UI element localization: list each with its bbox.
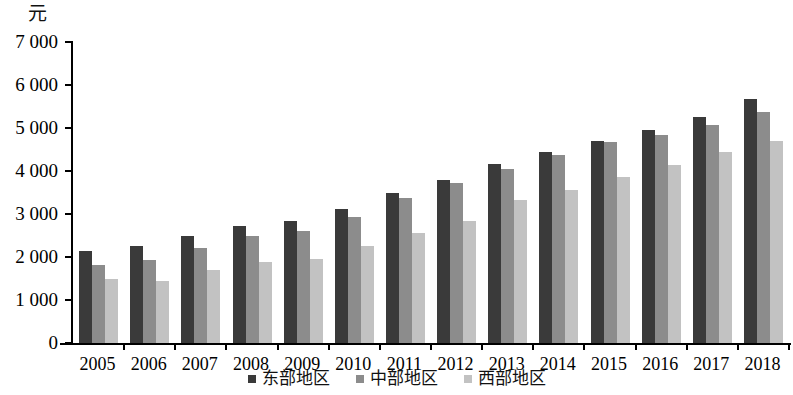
- y-axis-unit-label: 元: [28, 2, 47, 24]
- legend-label: 西部地区: [478, 369, 546, 388]
- bar: [246, 236, 259, 343]
- y-tick-mark: [65, 213, 72, 215]
- y-tick-label: 5 000: [0, 118, 58, 137]
- bar: [361, 246, 374, 343]
- bar: [156, 281, 169, 343]
- y-tick-mark: [65, 299, 72, 301]
- chart-legend: 东部地区中部地区西部地区: [0, 369, 793, 388]
- plot-area: 7 0006 0005 0004 0003 0002 0001 0000 200…: [72, 42, 788, 343]
- bar: [437, 180, 450, 343]
- legend-swatch-icon: [356, 375, 364, 383]
- bar: [412, 233, 425, 343]
- y-tick-label: 1 000: [0, 290, 58, 309]
- bar: [143, 260, 156, 343]
- bar: [130, 246, 143, 343]
- bar: [552, 155, 565, 343]
- bar: [284, 221, 297, 343]
- bar: [706, 125, 719, 343]
- bar: [92, 265, 105, 343]
- x-tick-mark: [379, 343, 381, 350]
- y-tick-mark: [65, 84, 72, 86]
- y-tick-label: 4 000: [0, 161, 58, 180]
- bar: [539, 152, 552, 343]
- bar: [501, 169, 514, 343]
- bar: [565, 190, 578, 344]
- y-tick-mark: [65, 256, 72, 258]
- y-tick-label: 7 000: [0, 32, 58, 51]
- bar: [386, 193, 399, 344]
- bar: [79, 251, 92, 343]
- bar: [757, 112, 770, 343]
- bar: [488, 164, 501, 343]
- x-tick-mark: [686, 343, 688, 350]
- x-tick-mark: [635, 343, 637, 350]
- y-tick-mark: [65, 127, 72, 129]
- legend-item[interactable]: 西部地区: [464, 369, 546, 388]
- bar: [463, 221, 476, 343]
- y-tick-mark: [65, 170, 72, 172]
- bar: [770, 141, 783, 343]
- bar: [399, 198, 412, 343]
- bar: [310, 259, 323, 343]
- legend-swatch-icon: [464, 375, 472, 383]
- bar: [604, 142, 617, 343]
- x-tick-mark: [328, 343, 330, 350]
- x-tick-mark: [532, 343, 534, 350]
- y-tick-label: 3 000: [0, 204, 58, 223]
- bar-chart: 元 7 0006 0005 0004 0003 0002 0001 0000 2…: [0, 0, 793, 395]
- bar: [642, 130, 655, 343]
- bar: [450, 183, 463, 343]
- x-axis-line: [60, 343, 791, 345]
- bar: [297, 231, 310, 343]
- x-tick-mark: [430, 343, 432, 350]
- y-tick-label: 6 000: [0, 75, 58, 94]
- bar: [233, 226, 246, 343]
- bar: [105, 279, 118, 343]
- x-tick-mark: [225, 343, 227, 350]
- y-tick-mark: [65, 41, 72, 43]
- legend-item[interactable]: 东部地区: [248, 369, 330, 388]
- y-tick-label: 0: [0, 333, 58, 352]
- legend-item[interactable]: 中部地区: [356, 369, 438, 388]
- bar: [719, 152, 732, 343]
- bar: [655, 135, 668, 343]
- x-tick-mark: [788, 343, 790, 350]
- x-tick-mark: [737, 343, 739, 350]
- bar: [617, 177, 630, 343]
- legend-label: 中部地区: [370, 369, 438, 388]
- bar: [259, 262, 272, 343]
- bar: [207, 270, 220, 343]
- bar: [514, 200, 527, 343]
- x-tick-mark: [277, 343, 279, 350]
- bar: [591, 141, 604, 343]
- bar: [335, 209, 348, 343]
- bar: [668, 165, 681, 343]
- bar: [194, 248, 207, 343]
- bar: [181, 236, 194, 344]
- y-tick-label: 2 000: [0, 247, 58, 266]
- bar: [348, 217, 361, 343]
- legend-swatch-icon: [248, 375, 256, 383]
- x-tick-mark: [583, 343, 585, 350]
- x-tick-mark: [123, 343, 125, 350]
- y-tick-mark: [65, 342, 72, 344]
- x-tick-mark: [174, 343, 176, 350]
- legend-label: 东部地区: [262, 369, 330, 388]
- x-tick-mark: [481, 343, 483, 350]
- bar: [693, 117, 706, 343]
- bar: [744, 99, 757, 343]
